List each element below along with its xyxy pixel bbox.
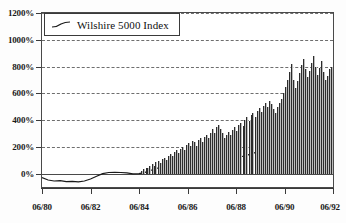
x-tick-mark <box>236 188 237 194</box>
x-tick-label: 06/88 <box>226 202 246 212</box>
line-swatch-icon <box>51 21 71 29</box>
x-tick-mark <box>188 188 189 194</box>
data-layer <box>42 13 333 187</box>
x-tick-mark <box>139 188 140 194</box>
y-tick-label: 800% <box>12 62 34 72</box>
x-tick-label: 06/84 <box>129 202 149 212</box>
x-tick-mark <box>42 188 43 194</box>
legend-label: Wilshire 5000 Index <box>77 19 169 31</box>
x-tick-mark <box>285 188 286 194</box>
x-tick-mark <box>91 188 92 194</box>
x-tick-label: 06/86 <box>178 202 198 212</box>
legend: Wilshire 5000 Index <box>44 13 180 36</box>
chart-screenshot: 0%200%400%600%800%1000%1200% Wilshire 50… <box>0 0 346 223</box>
x-tick-mark <box>333 188 334 194</box>
x-axis: 06/8006/8206/8406/8606/8806/9006/92 <box>0 188 346 223</box>
plot-area <box>41 12 334 188</box>
y-tick-label: 400% <box>12 115 34 125</box>
x-tick-label: 06/82 <box>81 202 101 212</box>
y-tick-label: 200% <box>12 142 34 152</box>
x-tick-label: 06/92 <box>320 202 340 212</box>
x-tick-label: 06/90 <box>275 202 295 212</box>
x-tick-label: 06/80 <box>32 202 52 212</box>
bar <box>331 67 333 174</box>
y-tick-label: 1200% <box>8 8 34 18</box>
y-tick-label: 0% <box>21 169 34 179</box>
y-tick-label: 1000% <box>8 35 34 45</box>
y-tick-label: 600% <box>12 88 34 98</box>
